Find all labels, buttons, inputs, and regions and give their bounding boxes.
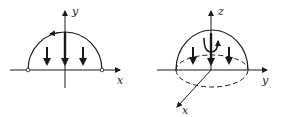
- left-circulation-arrow-icon: [50, 33, 60, 35]
- left-figure: y x: [10, 5, 124, 88]
- left-y-label: y: [71, 5, 79, 18]
- right-y-label: y: [261, 74, 269, 87]
- right-x-axis: [177, 70, 211, 107]
- right-figure: z y x: [157, 5, 269, 117]
- right-base-ellipse-front: [176, 70, 248, 87]
- left-x-label: x: [117, 74, 124, 87]
- right-x-label: x: [182, 104, 189, 117]
- left-endpoint-b: [100, 68, 104, 72]
- left-endpoint-a: [26, 68, 30, 72]
- right-z-label: z: [217, 5, 224, 18]
- diagram-canvas: y x z y x: [0, 0, 282, 117]
